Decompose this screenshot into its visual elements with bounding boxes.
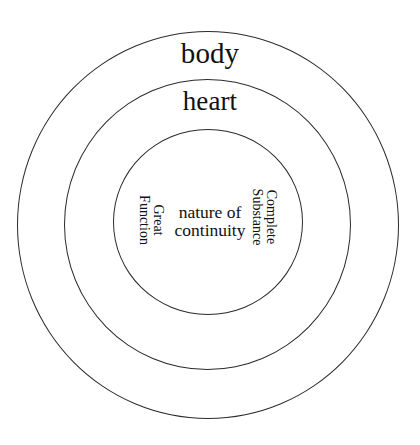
inner-circle-right-label-complete-substance: Complete Substance (262, 165, 278, 269)
concentric-circles-diagram: body heart nature of continuity Great Fu… (0, 0, 420, 445)
outer-circle-label: body (0, 39, 420, 68)
inner-circle-core-label: nature of continuity (0, 203, 420, 239)
middle-circle-label: heart (0, 88, 420, 115)
inner-circle-left-label-great-function: Great Function (149, 174, 165, 266)
